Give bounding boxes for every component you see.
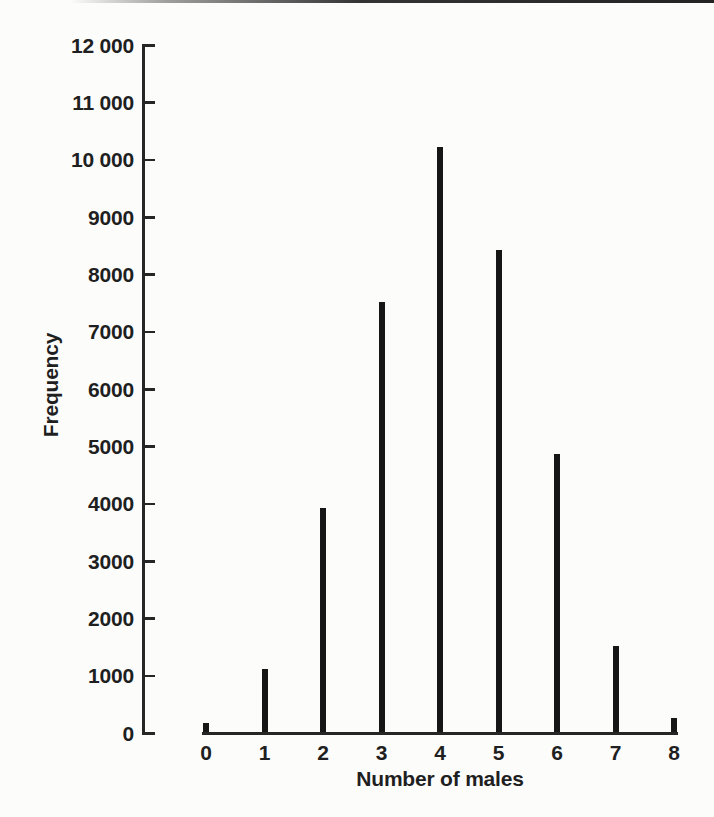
scanned-page: { "page": { "background": "#fcfcfb", "to… [0,0,714,817]
bar-x3 [379,302,385,732]
y-tick [142,445,155,448]
x-tick-label: 5 [477,742,521,763]
frequency-bar-chart: Frequency 010002000300040005000600070008… [0,0,714,817]
y-tick-label: 11 000 [22,92,134,113]
y-tick-label: 0 [22,723,134,744]
y-tick-label: 2000 [22,608,134,629]
y-tick-label: 4000 [22,493,134,514]
y-tick-label: 5000 [22,436,134,457]
y-tick-label: 10 000 [22,149,134,170]
y-tick [142,617,155,620]
x-tick-label: 6 [535,742,579,763]
bar-x1 [262,669,268,732]
bar-x4 [437,147,443,732]
y-tick-label: 1000 [22,665,134,686]
y-tick [142,159,155,162]
bar-x5 [496,250,502,732]
y-tick-label: 6000 [22,379,134,400]
x-axis-title: Number of males [290,767,590,791]
y-tick-label: 7000 [22,321,134,342]
x-tick-label: 2 [301,742,345,763]
x-tick-label: 1 [243,742,287,763]
x-tick-label: 0 [184,742,228,763]
y-tick [142,331,155,334]
y-tick [142,101,155,104]
x-axis-line [202,732,678,735]
bar-x0 [203,723,209,732]
y-tick [142,503,155,506]
y-tick [142,388,155,391]
bar-x7 [613,646,619,732]
x-tick-label: 3 [360,742,404,763]
y-tick-label: 12 000 [22,35,134,56]
x-tick-label: 4 [418,742,462,763]
y-tick [142,216,155,219]
y-tick [142,675,155,678]
y-tick [142,273,155,276]
y-tick-label: 3000 [22,551,134,572]
x-tick-label: 8 [652,742,696,763]
y-tick [142,44,155,47]
y-tick-label: 8000 [22,264,134,285]
y-tick [142,560,155,563]
x-tick-label: 7 [594,742,638,763]
bar-x2 [320,508,326,732]
bar-x6 [554,454,560,732]
y-tick-label: 9000 [22,207,134,228]
bar-x8 [671,718,677,732]
y-tick [142,732,155,735]
